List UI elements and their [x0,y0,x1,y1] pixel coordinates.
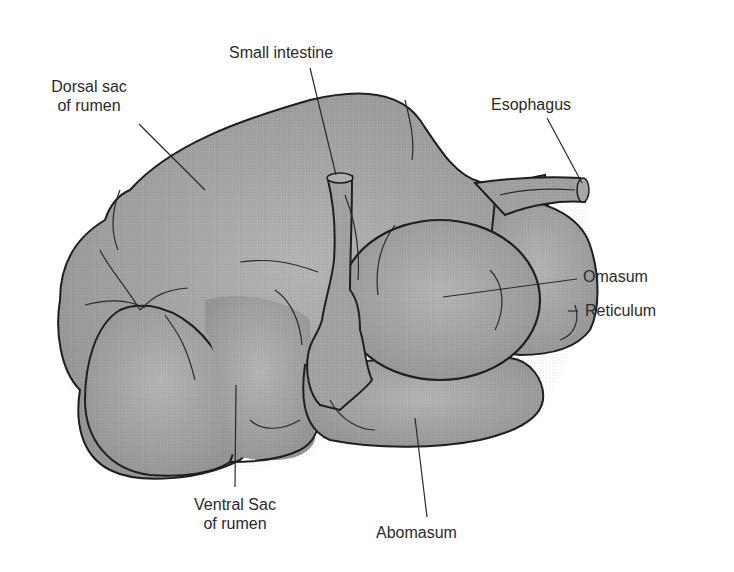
label-omasum: Omasum [583,267,648,286]
label-ventral-sac: Ventral Sac of rumen [170,495,300,533]
label-dorsal-sac: Dorsal sac of rumen [34,77,144,115]
stipple-texture [59,94,595,478]
label-small-intestine: Small intestine [229,43,333,62]
label-reticulum: Reticulum [585,301,656,320]
label-dorsal-sac-line2: of rumen [34,96,144,115]
label-dorsal-sac-line1: Dorsal sac [34,77,144,96]
label-esophagus: Esophagus [491,95,571,114]
label-abomasum: Abomasum [376,523,457,542]
label-ventral-sac-line2: of rumen [170,514,300,533]
label-ventral-sac-line1: Ventral Sac [170,495,300,514]
leader-esophagus [547,118,582,183]
